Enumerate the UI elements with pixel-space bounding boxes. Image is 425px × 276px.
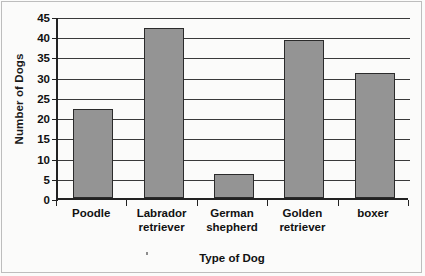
x-tick-label: Poodle — [56, 207, 126, 234]
bar-slot — [269, 16, 339, 198]
x-axis-title: Type of Dog — [56, 252, 408, 264]
y-tick-label: 45 — [37, 12, 50, 24]
y-tick-label: 10 — [37, 154, 50, 166]
bar-german-shepherd[interactable] — [214, 174, 254, 198]
y-tick-label: 35 — [37, 52, 50, 64]
y-tick-label: 5 — [44, 174, 50, 186]
bar-series — [58, 16, 410, 198]
x-tick-mark — [267, 200, 268, 206]
bar-labrador-retriever[interactable] — [144, 28, 184, 198]
plot-area: 051015202530354045 — [56, 18, 408, 200]
x-tick-label-line: retriever — [126, 221, 196, 235]
bar-slot — [340, 16, 410, 198]
y-tick-label: 20 — [37, 113, 50, 125]
x-tick-mark — [56, 200, 57, 206]
x-tick-label: Germanshepherd — [197, 207, 267, 234]
bar-poodle[interactable] — [73, 109, 113, 198]
x-axis-ticks — [56, 200, 408, 206]
x-tick-label-line: shepherd — [197, 221, 267, 235]
x-tick-label: boxer — [338, 207, 408, 234]
x-tick-label-line: Golden — [267, 207, 337, 221]
bar-golden-retriever[interactable] — [284, 40, 324, 198]
bar-chart-figure: Number of Dogs 051015202530354045 Poodle… — [0, 0, 425, 276]
y-axis-title: Number of Dogs — [13, 39, 25, 159]
bar-slot — [199, 16, 269, 198]
y-tick-label: 25 — [37, 93, 50, 105]
x-tick-mark — [126, 200, 127, 206]
x-tick-label-line: German — [197, 207, 267, 221]
y-tick-label: 0 — [44, 194, 50, 206]
x-tick-mark — [408, 200, 409, 206]
x-tick-label-line: Poodle — [56, 207, 126, 221]
bar-slot — [58, 16, 128, 198]
x-tick-label-line: retriever — [267, 221, 337, 235]
y-tick-label: 40 — [37, 32, 50, 44]
x-axis-tick-labels: PoodleLabradorretrieverGermanshepherdGol… — [56, 207, 408, 234]
x-tick-label-line: boxer — [338, 207, 408, 221]
y-tick-label: 30 — [37, 73, 50, 85]
x-tick-mark — [197, 200, 198, 206]
bar-slot — [128, 16, 198, 198]
x-tick-label: Labradorretriever — [126, 207, 196, 234]
scan-speck — [146, 252, 148, 255]
bar-boxer[interactable] — [355, 73, 395, 198]
x-tick-label: Goldenretriever — [267, 207, 337, 234]
x-tick-label-line: Labrador — [126, 207, 196, 221]
y-tick-label: 15 — [37, 133, 50, 145]
x-tick-mark — [338, 200, 339, 206]
